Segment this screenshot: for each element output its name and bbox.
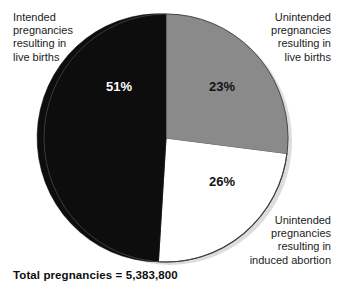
callout-label-unintended-live-births: Unintended pregnancies resulting in live… [225, 11, 331, 64]
total-pregnancies-footnote: Total pregnancies = 5,383,800 [13, 269, 178, 281]
slice-value-intended-live-births: 51% [97, 80, 141, 93]
callout-label-intended-live-births: Intended pregnancies resulting in live b… [13, 11, 117, 64]
pie-chart-figure: 51% 23% 26% Intended pregnancies resulti… [0, 0, 338, 293]
slice-value-unintended-induced-abortion: 26% [200, 175, 244, 188]
callout-label-unintended-induced-abortion: Unintended pregnancies resulting in indu… [219, 214, 331, 267]
slice-value-unintended-live-births: 23% [200, 80, 244, 93]
